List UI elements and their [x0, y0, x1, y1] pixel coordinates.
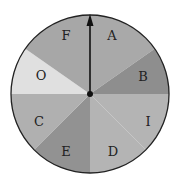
- sector-label-c: C: [34, 114, 44, 129]
- sector-label-a: A: [106, 28, 117, 43]
- sector-label-o: O: [36, 68, 47, 83]
- spinner-hub: [87, 91, 93, 97]
- sector-label-d: D: [108, 144, 118, 159]
- spinner-wheel: ABIDECOF: [0, 0, 174, 184]
- sector-label-b: B: [138, 69, 148, 84]
- sector-label-e: E: [61, 144, 71, 159]
- sector-label-f: F: [61, 28, 70, 43]
- sector-label-i: I: [145, 114, 150, 129]
